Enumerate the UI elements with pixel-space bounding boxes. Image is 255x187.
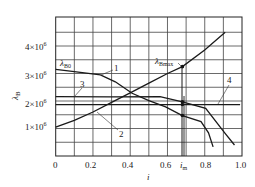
- x-axis-label: i: [147, 172, 150, 182]
- y-tick-3e6: 3×106: [25, 70, 47, 81]
- x-tick-0: 0: [53, 160, 58, 170]
- curves: [56, 32, 240, 147]
- x-tick-0.8: 0.8: [200, 160, 212, 170]
- y-tick-1e6: 1×106: [25, 121, 47, 132]
- curve-1-label: 1: [114, 63, 119, 73]
- y-axis-label: λB: [10, 91, 22, 101]
- curve-4-label: 4: [227, 75, 232, 85]
- lambda-bmax-leader: [178, 63, 181, 66]
- x-tick-1.0: 1.0: [235, 160, 247, 170]
- x-tick-im: im: [180, 160, 188, 171]
- curve-3: [56, 97, 235, 145]
- y-tick-4e6: 4×106: [25, 41, 47, 52]
- curve-3-label: 3: [80, 79, 85, 89]
- x-tick-0.2: 0.2: [85, 160, 96, 170]
- curve-3-leader: [74, 88, 82, 97]
- x-tick-0.6: 0.6: [160, 160, 172, 170]
- curve-2-label: 2: [119, 129, 124, 139]
- lambda-bmax-label: λBmax: [154, 56, 173, 67]
- x-tick-0.4: 0.4: [122, 160, 134, 170]
- y-tick-2e6: 2×106: [25, 98, 47, 109]
- lambda-vs-i-chart: 4×106 3×106 2×106 1×106 λB 0 0.2 0.4 0.6…: [0, 0, 255, 187]
